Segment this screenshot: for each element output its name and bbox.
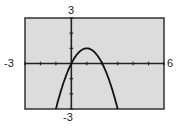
graph-screen xyxy=(0,0,178,128)
